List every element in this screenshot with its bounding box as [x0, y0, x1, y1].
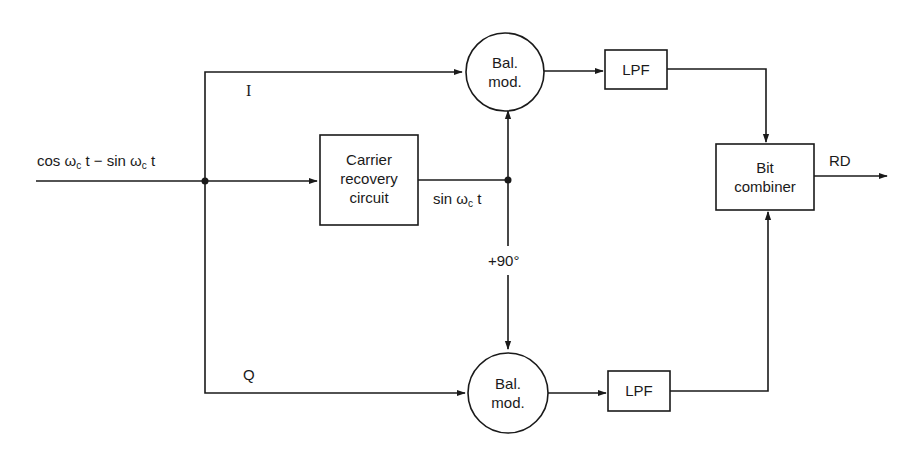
- carrier-junction-dot: [505, 177, 512, 184]
- input-t-text: t: [147, 152, 155, 169]
- carrier-recovery-line3: circuit: [320, 188, 418, 207]
- output-rd-label: RD: [829, 152, 851, 170]
- input-junction-dot: [202, 178, 209, 185]
- carrier-recovery-label: Carrier recovery circuit: [320, 150, 418, 207]
- carrier-recovery-line1: Carrier: [320, 150, 418, 169]
- bal-mod-top-line2: mod.: [466, 72, 544, 91]
- bal-mod-top-line1: Bal.: [466, 53, 544, 72]
- input-signal-label: cos ωc t − sin ωc t: [37, 152, 155, 175]
- carrier-sin-text: sin ω: [433, 190, 468, 207]
- bal-mod-bottom-line2: mod.: [469, 393, 547, 412]
- bit-combiner-line2: combiner: [716, 177, 814, 196]
- bal-mod-bottom-label: Bal. mod.: [469, 374, 547, 412]
- bal-mod-top-label: Bal. mod.: [466, 53, 544, 91]
- block-diagram: [0, 0, 920, 457]
- carrier-recovery-line2: recovery: [320, 169, 418, 188]
- lpf-top-to-combiner-line: [667, 69, 766, 142]
- bit-combiner-label: Bit combiner: [716, 158, 814, 196]
- input-sin-text: t − sin ω: [81, 152, 141, 169]
- lpf-bottom-label: LPF: [608, 381, 670, 400]
- q-branch-label: Q: [243, 366, 255, 384]
- phase-shift-label: +90°: [488, 252, 519, 270]
- bit-combiner-line1: Bit: [716, 158, 814, 177]
- q-branch-line: [205, 181, 465, 393]
- carrier-signal-label: sin ωc t: [433, 190, 481, 213]
- i-branch-label: I: [246, 82, 251, 100]
- carrier-t-text: t: [473, 190, 481, 207]
- bal-mod-bottom-line1: Bal.: [469, 374, 547, 393]
- input-cos-text: cos ω: [37, 152, 76, 169]
- lpf-top-label: LPF: [605, 60, 667, 79]
- lpf-bottom-to-combiner-line: [670, 212, 768, 391]
